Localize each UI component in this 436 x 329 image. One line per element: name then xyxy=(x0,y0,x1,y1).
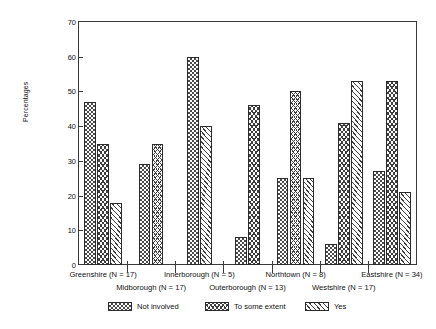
x-axis-group-label: Eastshire (N = 34) xyxy=(361,270,422,279)
y-axis-tick-label: 0 xyxy=(54,261,76,270)
y-axis-tick-mark xyxy=(78,126,83,127)
bar xyxy=(399,192,411,265)
y-axis-tick-mark xyxy=(78,161,83,162)
y-axis-tick-label: 60 xyxy=(54,52,76,61)
y-axis-label: Percentages xyxy=(22,108,29,122)
y-axis-tick-label: 50 xyxy=(54,87,76,96)
y-axis-tick-mark xyxy=(78,196,83,197)
bar xyxy=(84,102,96,265)
bar xyxy=(139,164,151,265)
bar xyxy=(351,81,363,265)
bar xyxy=(235,237,247,265)
x-axis-group-separator xyxy=(320,261,321,273)
x-axis-group-label: Northtown (N = 8) xyxy=(266,270,326,279)
y-axis-tick-mark xyxy=(78,57,83,58)
bar xyxy=(325,244,337,265)
chart-legend: Not involvedTo some extentYes xyxy=(0,300,436,314)
bar xyxy=(110,203,122,265)
bar xyxy=(290,91,302,265)
y-axis-tick-label: 70 xyxy=(54,18,76,27)
y-axis-tick-mark xyxy=(78,230,83,231)
bar xyxy=(338,123,350,265)
x-axis-group-separator xyxy=(175,261,176,273)
bar xyxy=(373,171,385,265)
legend-swatch xyxy=(305,302,329,311)
bar xyxy=(187,57,199,265)
bar xyxy=(152,144,164,266)
legend-swatch xyxy=(108,302,132,311)
bar xyxy=(200,126,212,265)
bar xyxy=(248,105,260,265)
y-axis-tick-label: 40 xyxy=(54,122,76,131)
y-axis-tick-labels: 010203040506070 xyxy=(48,0,76,329)
bar-chart-figure: Percentages 010203040506070 Greenshire (… xyxy=(0,0,436,329)
legend-label: Yes xyxy=(334,302,346,311)
legend-swatch xyxy=(205,302,229,311)
x-axis-group-label: Westshire (N = 17) xyxy=(312,283,375,292)
legend-item: Yes xyxy=(305,300,346,312)
bar xyxy=(386,81,398,265)
x-axis-group-separator xyxy=(127,261,128,273)
bar xyxy=(97,144,109,266)
y-axis-tick-mark xyxy=(78,91,83,92)
x-axis-group-separator xyxy=(272,261,273,273)
legend-label: To some extent xyxy=(234,302,286,311)
bars-layer xyxy=(79,22,416,265)
y-axis-tick-label: 10 xyxy=(54,226,76,235)
x-axis-group-label: Outerborough (N = 13) xyxy=(209,283,286,292)
y-axis-tick-label: 20 xyxy=(54,191,76,200)
legend-item: To some extent xyxy=(205,300,286,312)
x-axis-group-separator xyxy=(223,261,224,273)
x-axis-group-label: Midborough (N = 17) xyxy=(116,283,186,292)
bar xyxy=(277,178,289,265)
legend-item: Not involved xyxy=(108,300,179,312)
y-axis-tick-label: 30 xyxy=(54,156,76,165)
legend-label: Not involved xyxy=(137,302,179,311)
x-axis-group-separator xyxy=(368,261,369,273)
bar xyxy=(303,178,315,265)
